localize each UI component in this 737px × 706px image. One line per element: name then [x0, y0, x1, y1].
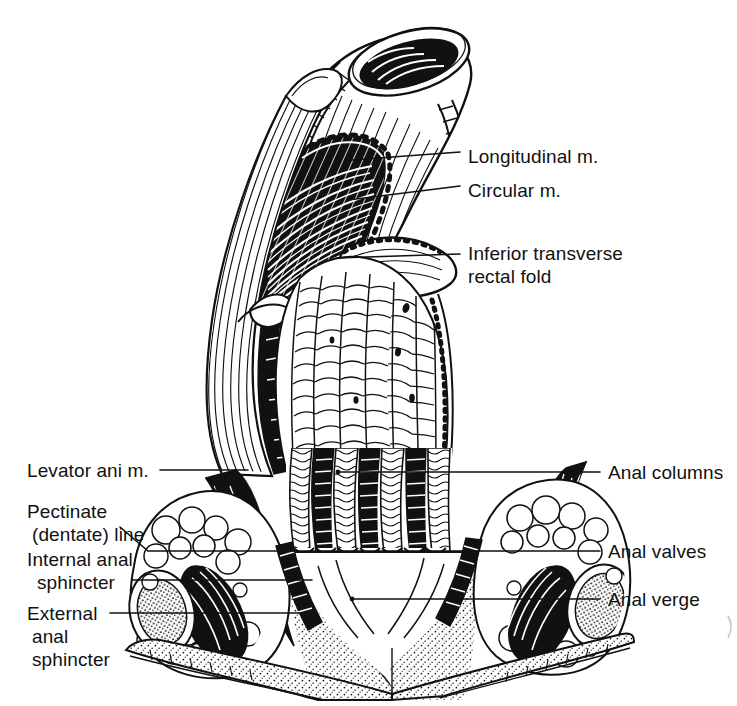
label-inferior-transverse-rectal-fold-line2: rectal fold: [468, 265, 551, 288]
label-pectinate-line-line2: (dentate) line: [32, 523, 144, 546]
label-anal-valves: Anal valves: [608, 540, 706, 563]
label-circular-muscle: Circular m.: [468, 179, 561, 202]
label-anal-columns: Anal columns: [608, 461, 723, 484]
label-inferior-transverse-rectal-fold-line1: Inferior transverse: [468, 242, 623, 265]
scan-edge-mark: [728, 616, 731, 638]
label-external-anal-sphincter-line3: sphincter: [32, 648, 110, 671]
label-pectinate-line-line1: Pectinate: [27, 500, 107, 523]
label-internal-anal-sphincter-line1: Internal anal: [27, 548, 133, 571]
label-longitudinal-muscle: Longitudinal m.: [468, 145, 598, 168]
label-external-anal-sphincter-line2: anal: [32, 625, 68, 648]
label-anal-verge: Anal verge: [608, 588, 700, 611]
anatomy-figure: Longitudinal m. Circular m. Inferior tra…: [0, 0, 737, 706]
label-levator-ani-muscle: Levator ani m.: [27, 459, 149, 482]
label-internal-anal-sphincter-line2: sphincter: [37, 571, 115, 594]
anal-columns: [286, 448, 456, 558]
label-external-anal-sphincter-line1: External: [27, 602, 98, 625]
